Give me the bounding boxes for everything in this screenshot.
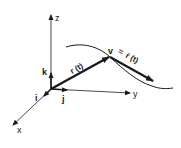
x-axis-label: x	[17, 125, 22, 135]
j-unit-vector	[51, 89, 67, 90]
velocity-equals-sign: =	[116, 46, 125, 57]
j-label: j	[61, 94, 65, 104]
velocity-v-label: v	[108, 46, 113, 56]
i-unit-vector	[44, 89, 51, 96]
vector-diagram: z y x k j i r (t) v = ṙ (t)	[0, 0, 181, 148]
z-axis-label: z	[55, 13, 60, 23]
k-label: k	[42, 67, 48, 77]
y-axis-label: y	[133, 89, 138, 99]
velocity-rdot-label: ṙ (t)	[124, 51, 140, 65]
i-label: i	[35, 93, 38, 103]
position-vector-label: r (t)	[69, 61, 85, 75]
